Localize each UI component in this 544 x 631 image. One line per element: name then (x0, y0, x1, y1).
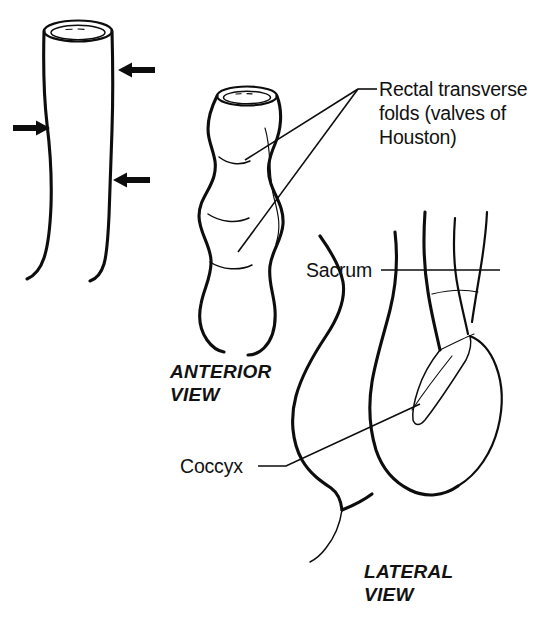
tube-lumen-highlight (66, 29, 84, 30)
folds-label-line3: Houston) (379, 126, 457, 148)
lateral-anal-verge (342, 494, 372, 510)
finger-tip-inner-contour (412, 356, 452, 410)
lateral-rectal-wall-anterior (370, 232, 458, 495)
folds-label-line1: Rectal transverse (379, 78, 527, 100)
finger-line-inner (472, 212, 487, 322)
lateral-view-caption: LATERAL VIEW (364, 561, 453, 605)
lateral-view-line2: VIEW (364, 584, 416, 605)
finger-joint-crease-lower (440, 334, 474, 350)
coccyx-leader-line (258, 404, 420, 466)
anterior-wall-right (248, 96, 283, 355)
anterior-rim-outer (217, 87, 277, 106)
folds-leader-lower (238, 89, 358, 252)
folds-label: Rectal transverse folds (valves of Houst… (379, 78, 527, 148)
anterior-fold-crease-middle (208, 214, 249, 221)
arrow-middle-left (13, 121, 50, 136)
distended-rectum-tube (13, 21, 155, 282)
arrow-left-icon (118, 63, 155, 78)
finger-line-middle (454, 218, 468, 334)
anterior-view-rectum (199, 87, 283, 356)
folds-label-line2: folds (valves of (379, 102, 507, 124)
anatomy-figure: Rectal transverse folds (valves of Houst… (0, 0, 544, 631)
anterior-wall-left (199, 96, 224, 352)
arrow-lower-right (113, 173, 150, 188)
arrow-right-icon (13, 121, 50, 136)
lateral-anterior-bulge (458, 336, 502, 486)
lateral-perineum-curve (310, 510, 342, 562)
anterior-fold-crease-lower (210, 262, 252, 269)
lateral-view-line1: LATERAL (364, 561, 453, 582)
anterior-view-line1: ANTERIOR (169, 361, 272, 382)
coccyx-leader (258, 404, 420, 466)
finger-line-outer (424, 212, 440, 350)
tube-rim-outer (44, 21, 112, 42)
tube-wall-right (90, 31, 113, 281)
arrow-left-icon (113, 173, 150, 188)
finger-joint-crease-upper (432, 290, 478, 294)
folds-leader-upper (245, 89, 358, 160)
illustration-canvas: Rectal transverse folds (valves of Houst… (0, 0, 544, 631)
folds-leader-lines (238, 89, 377, 252)
coccyx-label: Coccyx (180, 455, 243, 477)
anterior-view-line2: VIEW (170, 384, 222, 405)
tube-wall-left (27, 31, 51, 279)
anterior-view-caption: ANTERIOR VIEW (169, 361, 272, 405)
arrow-upper-right (118, 63, 155, 78)
tube-rim-inner (51, 25, 105, 39)
sacrum-label: Sacrum (306, 259, 372, 281)
